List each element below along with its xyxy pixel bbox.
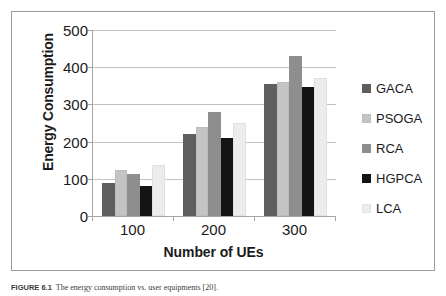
legend-swatch-icon [362,144,371,153]
legend-item-rca[interactable]: RCA [362,141,403,155]
bar-group [255,30,336,216]
x-axis-tick-label: 100 [120,221,145,238]
x-axis-title: Number of UEs [72,244,355,260]
x-axis-tick-labels: 100200300 [92,221,335,241]
legend-label: RCA [376,142,403,155]
bar [183,134,196,216]
bar [115,170,128,216]
plot-area [92,30,335,216]
bar [140,186,153,216]
bar [302,87,315,216]
bar [314,78,327,216]
legend-label: LCA [376,202,401,215]
figure-caption-text: The energy consumption vs. user equipmen… [56,283,218,292]
bar [127,174,140,216]
x-axis-tick-mark [335,216,336,221]
chart-legend: GACAPSOGARCAHGPCALCA [362,81,436,221]
bars-layer [93,30,336,216]
bar [208,112,221,216]
figure-caption-label: FIGURE 6.1 [11,283,52,292]
bar-chart: Energy Consumption 0100200300400500 1002… [12,12,436,270]
y-axis-tick-labels: 0100200300400500 [44,30,88,216]
bar [289,56,302,216]
figure-caption: FIGURE 6.1The energy consumption vs. use… [11,283,441,292]
legend-swatch-icon [362,174,371,183]
x-axis-tick-label: 300 [282,221,307,238]
legend-swatch-icon [362,84,371,93]
bar [277,82,290,216]
bar [152,165,165,216]
legend-label: HGPCA [376,172,422,185]
legend-label: PSOGA [376,112,422,125]
bar-group [93,30,174,216]
legend-swatch-icon [362,204,371,213]
y-axis-tick-label: 400 [44,59,88,76]
legend-swatch-icon [362,114,371,123]
bar [221,138,234,216]
figure-frame: Energy Consumption 0100200300400500 1002… [11,11,435,271]
y-axis-tick-label: 0 [44,208,88,225]
legend-item-lca[interactable]: LCA [362,201,401,215]
bar [102,183,115,216]
bar [233,123,246,216]
bar-group [174,30,255,216]
x-axis-tick-label: 200 [201,221,226,238]
legend-item-psoga[interactable]: PSOGA [362,111,422,125]
legend-item-gaca[interactable]: GACA [362,81,413,95]
legend-item-hgpca[interactable]: HGPCA [362,171,422,185]
legend-label: GACA [376,82,413,95]
bar [264,84,277,216]
y-axis-tick-label: 300 [44,96,88,113]
y-axis-tick-label: 100 [44,170,88,187]
y-axis-tick-label: 200 [44,133,88,150]
bar [196,127,209,216]
y-axis-tick-label: 500 [44,22,88,39]
